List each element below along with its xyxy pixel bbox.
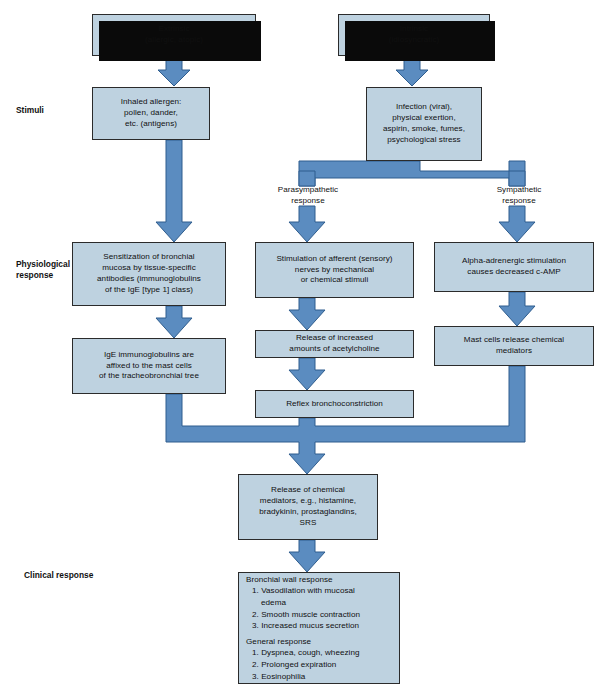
- arrow-parasympathetic-to-afferent: [289, 206, 325, 242]
- node-intrinsic[interactable]: Intrinsic (idiosyncratic): [338, 14, 490, 56]
- node-infection[interactable]: Infection (viral), physical exertion, as…: [366, 87, 482, 161]
- node-chemical-mediators[interactable]: Release of chemical mediators, e.g., his…: [238, 474, 378, 540]
- node-alpha-adrenergic[interactable]: Alpha-adrenergic stimulation causes decr…: [434, 242, 594, 292]
- arrow-acetylcholine-to-reflex: [289, 358, 325, 390]
- outcome-group-heading: General response: [246, 636, 360, 648]
- arrow-inhaled-to-sensitization: [156, 140, 192, 242]
- connector-split-right-stem: [509, 171, 525, 186]
- flowchart-canvas: .conn { fill: #5b8cc0; stroke: #2f5d8e; …: [0, 0, 606, 700]
- clinical-outcomes-body: Bronchial wall response1. Vasodilation w…: [246, 574, 360, 683]
- side-label-physiological-response: Physiological response: [16, 259, 70, 281]
- node-ige-affixed[interactable]: IgE immunoglobulins are affixed to the m…: [72, 338, 226, 394]
- outcome-list-item: 1. Vasodilation with mucosal edema: [246, 585, 360, 608]
- side-label-clinical-response: Clinical response: [24, 570, 93, 581]
- node-mast-cells[interactable]: Mast cells release chemical mediators: [434, 326, 594, 366]
- node-sensitization[interactable]: Sensitization of bronchial mucosa by tis…: [72, 242, 226, 306]
- outcome-group: General response1. Dyspnea, cough, wheez…: [246, 636, 360, 683]
- outcome-list-item: 3. Eosinophilia: [246, 671, 360, 683]
- node-inhaled-allergen[interactable]: Inhaled allergen: pollen, dander, etc. (…: [92, 87, 210, 140]
- arrow-alpha-to-mastcells: [499, 292, 535, 326]
- node-reflex-bronchoconstriction[interactable]: Reflex bronchoconstriction: [255, 390, 414, 418]
- outcome-group-heading: Bronchial wall response: [246, 574, 360, 586]
- arrow-sympathetic-to-alpha: [499, 206, 535, 242]
- branch-label-parasympathetic: Parasympathetic response: [262, 185, 354, 206]
- connector-infection-split-bar: [299, 161, 525, 186]
- arrow-afferent-to-acetylcholine: [289, 298, 325, 330]
- outcome-group: Bronchial wall response1. Vasodilation w…: [246, 574, 360, 632]
- node-clinical-outcomes[interactable]: Bronchial wall response1. Vasodilation w…: [238, 572, 400, 684]
- outcome-list-item: 2. Prolonged expiration: [246, 659, 360, 671]
- node-extrinsic[interactable]: Extrinsic (allergic, atopic): [92, 14, 256, 56]
- branch-label-sympathetic: Sympathetic response: [477, 185, 561, 206]
- outcome-list-item: 1. Dyspnea, cough, wheezing: [246, 647, 360, 659]
- connector-split-left-stem: [299, 171, 315, 186]
- side-label-stimuli: Stimuli: [16, 105, 44, 116]
- arrow-sensitization-to-ige: [156, 306, 192, 338]
- outcome-list-item: 2. Smooth muscle contraction: [246, 609, 360, 621]
- arrow-mediators-to-outcome: [289, 540, 325, 572]
- node-acetylcholine[interactable]: Release of increased amounts of acetylch…: [255, 330, 414, 358]
- node-afferent-stimulation[interactable]: Stimulation of afferent (sensory) nerves…: [255, 242, 414, 298]
- outcome-list-item: 3. Increased mucus secretion: [246, 620, 360, 632]
